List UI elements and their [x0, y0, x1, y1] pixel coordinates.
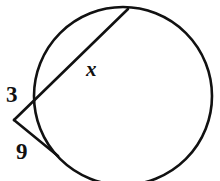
- geometry-figure: 3 9 x: [0, 0, 220, 181]
- chord-length-label: x: [86, 59, 97, 80]
- geometry-canvas: [0, 0, 220, 181]
- near-secant-length-label: 3: [6, 83, 18, 106]
- upper-secant-line: [14, 9, 128, 120]
- circle-shape: [34, 7, 212, 181]
- far-secant-length-label: 9: [16, 140, 28, 163]
